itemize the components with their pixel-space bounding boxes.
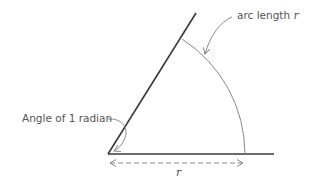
angled-ray [108,13,196,154]
arc-length-pointer-arrow [205,17,232,54]
radius-label: r [176,166,182,179]
diagram-canvas: arc length r Angle of 1 radian r [0,0,312,185]
arc-length-label: arc length r [237,9,299,22]
radian-diagram: arc length r Angle of 1 radian r [0,0,312,185]
arc [182,39,245,154]
angle-label: Angle of 1 radian [22,112,112,124]
